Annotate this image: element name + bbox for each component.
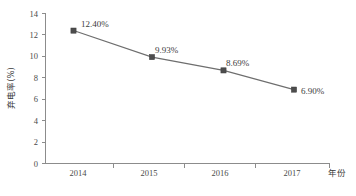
x-tick-label: 2017: [284, 168, 301, 178]
data-point-marker: [149, 55, 154, 60]
x-axis-title: 年份: [328, 168, 346, 178]
y-tick-label: 12: [30, 30, 39, 40]
data-point-marker: [71, 28, 76, 33]
y-tick-label: 2: [34, 137, 38, 147]
x-tick-label: 2016: [212, 168, 229, 178]
data-point-label: 8.69%: [226, 58, 250, 68]
x-tick-label: 2014: [70, 168, 88, 178]
data-point-label: 9.93%: [155, 45, 179, 55]
chart-background: [0, 0, 356, 196]
data-point-marker: [291, 87, 296, 92]
y-tick-label: 8: [34, 73, 38, 83]
data-point-marker: [221, 68, 226, 73]
y-tick-label: 10: [30, 51, 39, 61]
y-tick-label: 0: [34, 159, 38, 169]
data-point-label: 6.90%: [301, 86, 325, 96]
y-tick-label: 14: [30, 9, 39, 19]
chart-canvas: 14 12 10 8 6 4 2 0 弃电率(%) 2014 2015 2016…: [0, 0, 356, 196]
y-axis-title: 弃电率(%): [6, 67, 16, 109]
line-chart: 14 12 10 8 6 4 2 0 弃电率(%) 2014 2015 2016…: [0, 0, 356, 196]
x-tick-label: 2015: [141, 168, 158, 178]
y-tick-label: 6: [34, 94, 38, 104]
data-point-label: 12.40%: [81, 19, 109, 29]
